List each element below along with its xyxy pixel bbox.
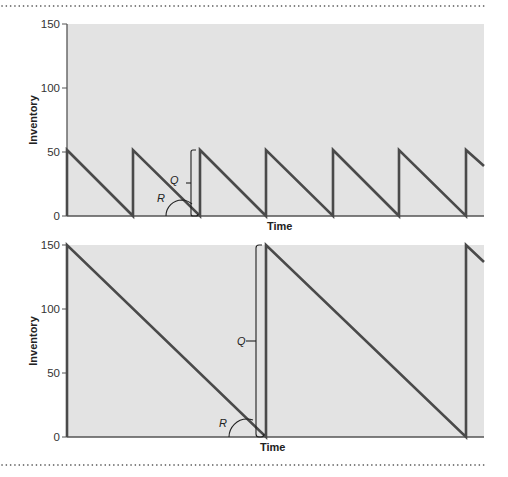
y-tick-label: 100 <box>41 303 60 315</box>
figure: 150 100 50 0 Inventory Time Q R 150 100 … <box>0 0 508 477</box>
chart-bottom: 150 100 50 0 Inventory Time Q R <box>27 239 484 453</box>
y-tick-label: 150 <box>41 239 60 251</box>
plot-area-bottom <box>67 245 484 437</box>
x-axis-label: Time <box>260 441 285 453</box>
y-tick-label: 100 <box>41 82 60 94</box>
r-label-bottom: R <box>219 417 227 429</box>
plot-area-top <box>67 24 484 216</box>
q-label-top: Q <box>170 174 179 186</box>
r-label-top: R <box>157 192 165 204</box>
y-tick-label: 0 <box>54 431 60 443</box>
y-tick-label: 150 <box>41 18 60 30</box>
chart-top: 150 100 50 0 Inventory Time Q R <box>27 18 484 232</box>
y-tick-label: 50 <box>47 367 60 379</box>
x-axis-label: Time <box>267 220 292 232</box>
q-label-bottom: Q <box>237 335 246 347</box>
y-axis-label: Inventory <box>27 94 39 144</box>
y-tick-label: 50 <box>47 146 60 158</box>
y-axis-label: Inventory <box>27 315 39 365</box>
y-tick-label: 0 <box>54 210 60 222</box>
